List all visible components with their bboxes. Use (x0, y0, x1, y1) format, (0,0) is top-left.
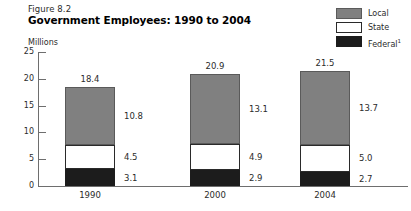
bar-segment-2004-local (300, 71, 350, 144)
y-tick-label-20: 20 (16, 75, 34, 83)
figure-container: Figure 8.2 Government Employees: 1990 to… (0, 0, 411, 211)
y-tick-mark-10 (39, 132, 46, 133)
segment-value-label-2004-local: 13.7 (359, 103, 378, 113)
bar-segment-1990-local (65, 87, 115, 145)
bar-total-label-2000: 20.9 (190, 61, 240, 71)
x-axis-label-2004: 2004 (295, 190, 355, 200)
segment-value-label-1990-state: 4.5 (124, 152, 138, 162)
segment-value-label-2004-federal: 2.7 (359, 174, 373, 184)
y-tick-label-0: 0 (16, 182, 34, 190)
chart-plot-area: 0510152025 3.14.510.818.42.94.913.120.92… (0, 0, 411, 211)
y-tick-label-15: 15 (16, 102, 34, 110)
segment-value-label-2000-local: 13.1 (249, 104, 268, 114)
x-axis-label-2000: 2000 (185, 190, 245, 200)
y-tick-mark-5 (39, 159, 46, 160)
bar-segment-2004-state (300, 145, 350, 172)
y-axis-line (38, 52, 39, 187)
bar-total-label-2004: 21.5 (300, 58, 350, 68)
bar-segment-2000-federal (190, 170, 240, 186)
y-tick-mark-0 (39, 186, 46, 187)
y-tick-mark-25 (39, 52, 46, 53)
segment-value-label-1990-local: 10.8 (124, 111, 143, 121)
y-tick-label-5: 5 (16, 155, 34, 163)
bar-segment-1990-state (65, 145, 115, 169)
segment-value-label-1990-federal: 3.1 (124, 173, 138, 183)
segment-value-label-2000-state: 4.9 (249, 152, 263, 162)
bar-segment-2000-local (190, 74, 240, 144)
bar-segment-1990-federal (65, 169, 115, 186)
bar-total-label-1990: 18.4 (65, 74, 115, 84)
y-tick-mark-15 (39, 106, 46, 107)
bar-segment-2004-federal (300, 172, 350, 186)
segment-value-label-2004-state: 5.0 (359, 153, 373, 163)
bar-segment-2000-state (190, 144, 240, 170)
y-tick-mark-20 (39, 79, 46, 80)
x-axis-label-1990: 1990 (60, 190, 120, 200)
segment-value-label-2000-federal: 2.9 (249, 173, 263, 183)
y-tick-label-10: 10 (16, 128, 34, 136)
x-axis-line (38, 186, 408, 187)
y-tick-label-25: 25 (16, 48, 34, 56)
